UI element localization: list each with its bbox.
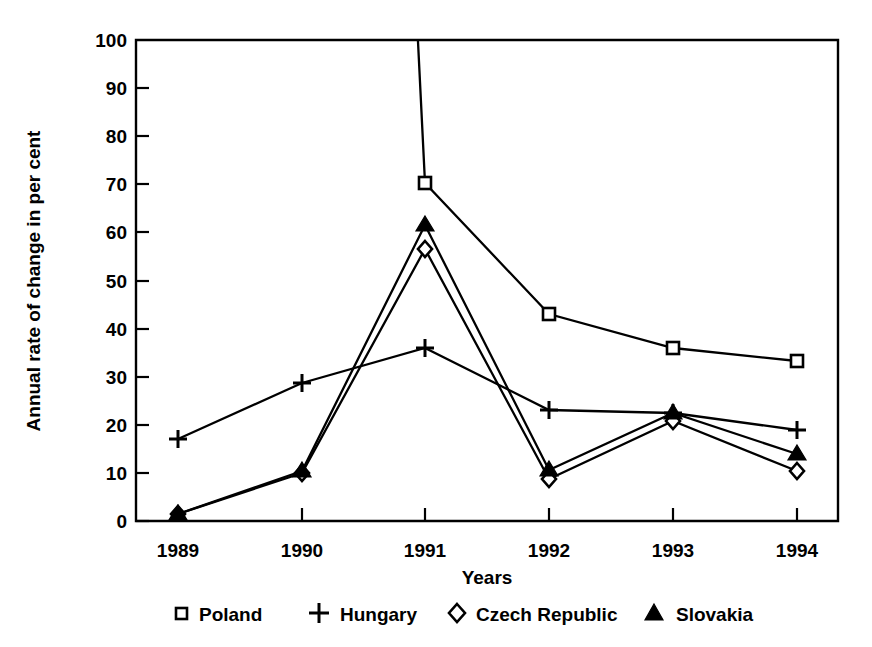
line-chart-svg: 0 10 20 30 40 50 60 70 80 90 100 1989 19…	[0, 0, 872, 647]
open-square-icon	[791, 355, 803, 367]
open-square-icon	[667, 342, 679, 354]
y-tick-label-90: 90	[106, 78, 127, 99]
y-tick-label-10: 10	[106, 463, 127, 484]
x-tick-label-1990: 1990	[281, 540, 323, 561]
x-tick-label-1994: 1994	[776, 540, 819, 561]
open-square-icon	[543, 308, 555, 320]
y-tick-label-100: 100	[95, 30, 127, 51]
y-tick-label-0: 0	[116, 511, 127, 532]
y-tick-label-20: 20	[106, 415, 127, 436]
open-square-icon	[419, 177, 431, 189]
legend-label-poland: Poland	[199, 604, 262, 625]
legend-label-czech-republic: Czech Republic	[476, 604, 618, 625]
y-tick-label-40: 40	[106, 319, 127, 340]
x-tick-label-1991: 1991	[404, 540, 447, 561]
x-tick-label-1993: 1993	[652, 540, 694, 561]
legend-open-square-icon	[176, 608, 187, 619]
x-tick-label-1992: 1992	[528, 540, 570, 561]
y-tick-label-60: 60	[106, 222, 127, 243]
chart-figure: 0 10 20 30 40 50 60 70 80 90 100 1989 19…	[0, 0, 872, 647]
y-tick-label-70: 70	[106, 174, 127, 195]
x-axis-title: Years	[462, 567, 513, 588]
y-tick-label-50: 50	[106, 271, 127, 292]
y-tick-label-30: 30	[106, 367, 127, 388]
legend-label-hungary: Hungary	[340, 604, 418, 625]
legend-label-slovakia: Slovakia	[676, 604, 754, 625]
y-tick-label-80: 80	[106, 126, 127, 147]
y-axis-title: Annual rate of change in per cent	[23, 130, 44, 432]
x-tick-label-1989: 1989	[157, 540, 199, 561]
